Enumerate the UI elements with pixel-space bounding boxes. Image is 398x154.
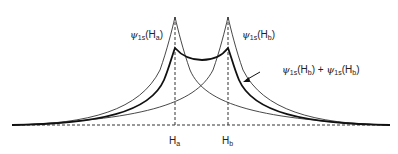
orbital-sub: 1s xyxy=(138,34,145,41)
sum-pointer-arrowhead xyxy=(243,77,250,82)
orbital-sub: 1s xyxy=(290,69,297,76)
psi-symbol: ψ xyxy=(130,29,138,40)
atom-sub: b xyxy=(308,69,312,76)
plus-sign: + xyxy=(318,64,324,75)
nucleus-sub: a xyxy=(176,140,180,147)
nucleus-sub: b xyxy=(229,140,233,147)
atom-sub: b xyxy=(268,34,272,41)
psi-symbol: ψ xyxy=(282,64,290,75)
nucleus-label-b: Hb xyxy=(222,136,233,147)
orbital-sub: 1s xyxy=(250,34,257,41)
orbital-diagram xyxy=(0,0,398,154)
sum-curve xyxy=(12,48,390,125)
label-psi-hb: ψ1s(Hb) xyxy=(242,30,275,41)
atom-symbol: H xyxy=(149,29,156,40)
atom-sub: a xyxy=(156,34,160,41)
nucleus-label-a: Ha xyxy=(169,136,180,147)
label-psi-ha: ψ1s(Ha) xyxy=(130,30,163,41)
atom-symbol: H xyxy=(301,64,308,75)
label-sum: ψ1s(Hb) + ψ1s(Hb) xyxy=(282,65,360,76)
atom-sub: b xyxy=(352,69,356,76)
psi-symbol: ψ xyxy=(242,29,250,40)
orbital-sub: 1s xyxy=(334,69,341,76)
atom-symbol: H xyxy=(261,29,268,40)
